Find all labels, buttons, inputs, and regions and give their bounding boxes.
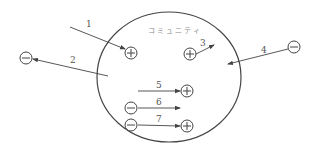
arrow-7: 7 [138, 114, 180, 126]
plus-node-icon [184, 48, 196, 60]
community-diagram: コミュニティ 1234567 [0, 0, 320, 152]
arrows-layer: 1234567 [33, 19, 288, 126]
community-title: コミュニティ [148, 27, 202, 35]
arrow-6: 6 [138, 97, 180, 108]
arrow-1: 1 [70, 19, 125, 49]
arrow-label: 2 [70, 55, 76, 65]
plus-node-icon [181, 85, 193, 97]
arrow-label: 4 [261, 45, 267, 55]
arrow-label: 7 [156, 114, 162, 124]
arrow-line [138, 125, 180, 126]
arrow-label: 1 [86, 19, 92, 29]
arrow-label: 3 [200, 38, 206, 48]
arrow-label: 6 [156, 97, 162, 107]
arrow-label: 5 [156, 80, 162, 90]
arrow-5: 5 [138, 80, 180, 91]
minus-node-icon [20, 52, 32, 64]
plus-node-icon [125, 47, 137, 59]
minus-node-icon [125, 102, 137, 114]
minus-node-icon [288, 41, 300, 53]
arrow-line [70, 27, 125, 49]
minus-node-icon [125, 119, 137, 131]
plus-node-icon [181, 120, 193, 132]
arrow-3: 3 [196, 38, 214, 54]
